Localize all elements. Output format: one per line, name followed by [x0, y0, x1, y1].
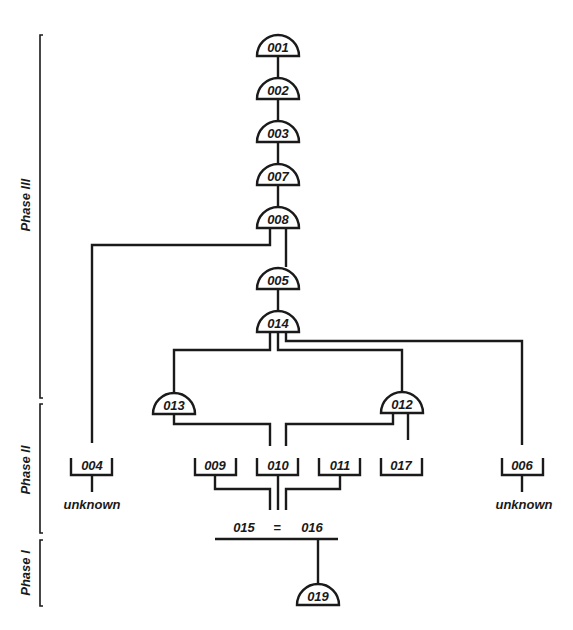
svg-text:005: 005: [267, 273, 289, 288]
node-004[interactable]: 004: [71, 458, 112, 475]
svg-text:002: 002: [267, 83, 289, 98]
equivalence-015-016[interactable]: 015 = 016: [233, 520, 323, 535]
phase-bracket-ii: [40, 404, 43, 533]
node-007[interactable]: 007: [257, 164, 299, 185]
node-015: 015: [233, 520, 255, 535]
phase-bracket-iii: [40, 35, 43, 398]
node-009[interactable]: 009: [195, 458, 236, 475]
node-002[interactable]: 002: [257, 78, 299, 99]
node-001[interactable]: 001: [257, 35, 299, 56]
svg-text:014: 014: [267, 316, 289, 331]
equals-sign: =: [273, 520, 281, 535]
phase-label-iii: Phase III: [18, 178, 33, 231]
svg-text:010: 010: [267, 458, 289, 473]
svg-text:001: 001: [267, 40, 289, 55]
connection-lines: [92, 56, 522, 584]
svg-text:003: 003: [267, 126, 289, 141]
node-005[interactable]: 005: [257, 268, 299, 289]
node-003[interactable]: 003: [257, 121, 299, 142]
node-010[interactable]: 010: [257, 458, 298, 475]
svg-text:013: 013: [163, 398, 185, 413]
node-013[interactable]: 013: [153, 393, 195, 414]
unknown-label-left: unknown: [63, 497, 120, 512]
node-008[interactable]: 008: [257, 207, 299, 228]
svg-text:019: 019: [307, 589, 329, 604]
stemma-diagram: Phase III Phase II Phase I: [0, 0, 573, 630]
node-011[interactable]: 011: [319, 458, 360, 475]
node-019[interactable]: 019: [297, 584, 339, 605]
node-006[interactable]: 006: [502, 458, 543, 475]
svg-text:012: 012: [391, 397, 413, 412]
node-016: 016: [301, 520, 323, 535]
svg-text:009: 009: [204, 458, 226, 473]
unknown-label-right: unknown: [495, 497, 552, 512]
svg-text:007: 007: [267, 169, 289, 184]
phase-label-i: Phase I: [18, 550, 33, 596]
svg-text:004: 004: [81, 458, 103, 473]
svg-text:008: 008: [267, 212, 289, 227]
phase-label-ii: Phase II: [18, 445, 33, 495]
node-012[interactable]: 012: [381, 392, 423, 413]
node-017[interactable]: 017: [381, 458, 422, 475]
phase-bracket-i: [40, 540, 43, 606]
node-014[interactable]: 014: [257, 311, 299, 332]
svg-text:006: 006: [511, 458, 533, 473]
svg-text:017: 017: [390, 458, 412, 473]
svg-text:011: 011: [330, 458, 351, 473]
